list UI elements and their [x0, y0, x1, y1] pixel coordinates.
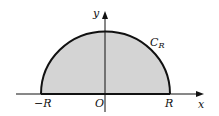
origin-label: O — [95, 98, 104, 109]
y-axis-label: y — [93, 8, 99, 19]
diagram-graphic — [0, 0, 219, 116]
pos-r-label: R — [165, 98, 173, 109]
x-axis-arrow-icon — [196, 91, 204, 97]
curve-label: CR — [150, 37, 164, 50]
neg-r-label: −R — [34, 98, 52, 109]
semicircle-contour-diagram: y x CR −R O R — [0, 0, 219, 116]
curve-label-subscript: R — [158, 41, 164, 50]
x-axis-label: x — [198, 99, 204, 110]
y-axis-arrow-icon — [102, 11, 108, 19]
